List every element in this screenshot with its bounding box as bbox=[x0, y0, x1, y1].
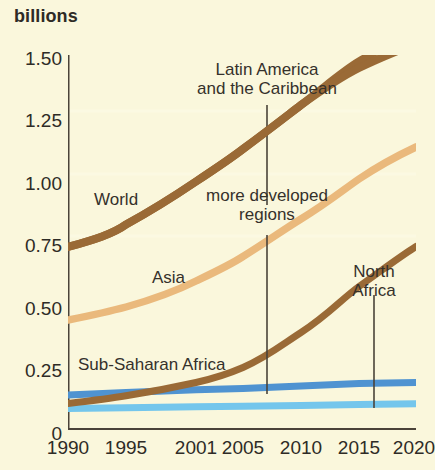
x-tick-label-2005: 2005 bbox=[222, 438, 264, 457]
x-tick-label-2015: 2015 bbox=[338, 438, 380, 457]
x-tick-label-2010: 2010 bbox=[280, 438, 322, 457]
series-annotation-more-developed-regions: more developed regions bbox=[206, 186, 328, 224]
x-tick-label-1990: 1990 bbox=[47, 438, 89, 457]
series-annotation-latin-america-line1: Latin America bbox=[197, 60, 337, 79]
series-annotation-more-developed-line1: more developed bbox=[206, 186, 328, 205]
y-axis-tick-labels: 1.50 1.25 1.00 0.75 0.50 0.25 0 bbox=[0, 0, 62, 470]
x-tick-label-2020: 2020 bbox=[393, 438, 435, 457]
series-annotation-sub-saharan-africa: Sub-Saharan Africa bbox=[78, 355, 225, 374]
x-tick-label-1995: 1995 bbox=[105, 438, 147, 457]
x-tick-label-2001: 2001 bbox=[175, 438, 217, 457]
series-annotation-asia: Asia bbox=[152, 268, 185, 287]
series-annotation-north-africa-line1: North bbox=[352, 262, 395, 281]
series-annotation-north-africa: North Africa bbox=[352, 262, 395, 300]
y-tick-label-0-75: 0.75 bbox=[25, 236, 62, 255]
y-tick-label-1-00: 1.00 bbox=[25, 174, 62, 193]
y-tick-label-1-50: 1.50 bbox=[25, 49, 62, 68]
y-tick-label-0-25: 0.25 bbox=[25, 361, 62, 380]
y-tick-label-1-25: 1.25 bbox=[25, 111, 62, 130]
y-tick-label-0-50: 0.50 bbox=[25, 299, 62, 318]
series-annotation-latin-america-line2: and the Caribbean bbox=[197, 79, 337, 98]
series-annotation-more-developed-line2: regions bbox=[206, 205, 328, 224]
series-annotation-latin-america: Latin America and the Caribbean bbox=[197, 60, 337, 98]
series-annotation-north-africa-line2: Africa bbox=[352, 281, 395, 300]
chart-container: billions 1.50 1.25 1.00 0.75 0.50 0.25 0 bbox=[0, 0, 435, 470]
x-axis-tick-labels: 1990 1995 2001 2005 2010 2015 2020 bbox=[0, 438, 435, 468]
series-annotation-world: World bbox=[94, 190, 138, 209]
